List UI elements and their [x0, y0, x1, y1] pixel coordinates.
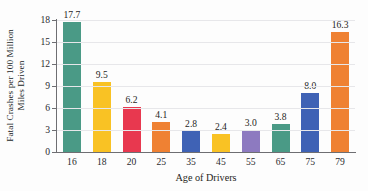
x-tick-label: 18	[86, 157, 118, 167]
bar	[331, 32, 349, 152]
gridline	[57, 130, 355, 131]
gridline	[57, 64, 355, 65]
x-tick-label: 35	[175, 157, 207, 167]
y-axis-title-line-2: Miles Driven	[15, 29, 26, 142]
x-tick-label: 75	[294, 157, 326, 167]
y-tick-label: 3	[26, 125, 50, 135]
bar-value-label: 3.8	[265, 112, 297, 122]
bar-value-label: 16.3	[324, 20, 356, 30]
bar	[93, 82, 111, 152]
gridline	[57, 86, 355, 87]
y-tick-label: 12	[26, 59, 50, 69]
bar-value-label: 4.1	[145, 110, 177, 120]
gridline	[57, 20, 355, 21]
bar-value-label: 6.2	[116, 95, 148, 105]
bar-value-label: 17.7	[56, 10, 88, 20]
y-tick-label: 15	[26, 37, 50, 47]
bar	[301, 93, 319, 152]
bar-chart: Fatal Crashes per 100 Million Miles Driv…	[0, 0, 368, 191]
x-tick-label: 65	[265, 157, 297, 167]
x-tick-label: 20	[116, 157, 148, 167]
y-tick-label: 18	[26, 15, 50, 25]
x-axis-line	[56, 152, 356, 153]
x-tick-label: 25	[145, 157, 177, 167]
y-tick-label: 9	[26, 81, 50, 91]
bar	[152, 122, 170, 152]
y-axis-title-line-1: Fatal Crashes per 100 Million	[5, 29, 16, 142]
x-tick-label: 79	[324, 157, 356, 167]
x-tick-label: 45	[205, 157, 237, 167]
bar	[242, 130, 260, 152]
x-tick-label: 55	[235, 157, 267, 167]
bar-value-label: 9.5	[86, 70, 118, 80]
gridline	[57, 108, 355, 109]
y-tick-label: 6	[26, 103, 50, 113]
gridline	[57, 42, 355, 43]
bar	[272, 124, 290, 152]
x-tick-label: 16	[56, 157, 88, 167]
x-axis-title: Age of Drivers	[57, 172, 355, 183]
y-tick-label: 0	[26, 147, 50, 157]
bar	[212, 134, 230, 152]
bar	[182, 131, 200, 152]
bar-value-label: 3.0	[235, 118, 267, 128]
bar-value-label: 2.8	[175, 119, 207, 129]
